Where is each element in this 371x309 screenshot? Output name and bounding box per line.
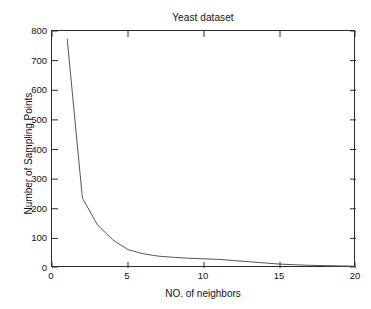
x-axis-tick-labels: 05101520 <box>51 270 355 284</box>
x-tick-label: 5 <box>107 270 147 281</box>
x-tick-label: 15 <box>259 270 299 281</box>
y-tick-label: 300 <box>7 173 47 184</box>
plot-area <box>51 30 355 267</box>
data-series-line <box>67 39 356 266</box>
x-tick-label: 10 <box>183 270 223 281</box>
y-tick-label: 400 <box>7 143 47 154</box>
chart-title: Yeast dataset <box>51 12 355 23</box>
y-tick-label: 600 <box>7 84 47 95</box>
chart-figure: Yeast dataset Number of Sampling Points … <box>0 0 371 309</box>
x-axis-label: NO. of neighbors <box>51 288 355 299</box>
y-axis-tick-labels: 0100200300400500600700800 <box>3 30 47 267</box>
plot-svg <box>52 31 356 268</box>
y-tick-label: 800 <box>7 25 47 36</box>
axis-ticks <box>52 31 356 268</box>
x-tick-label: 0 <box>31 270 71 281</box>
y-tick-label: 200 <box>7 202 47 213</box>
y-tick-label: 700 <box>7 54 47 65</box>
y-tick-label: 500 <box>7 113 47 124</box>
x-tick-label: 20 <box>335 270 371 281</box>
y-tick-label: 100 <box>7 232 47 243</box>
